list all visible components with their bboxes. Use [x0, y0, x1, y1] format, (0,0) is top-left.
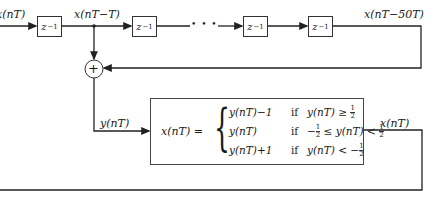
delay-exp: −1: [253, 23, 263, 31]
adder-plus-icon: +: [88, 62, 99, 75]
case-row-3: y(nT)+1ify(nT) < −12: [229, 143, 364, 158]
quantizer-block: x(nT) = { y(nT)−1ify(nT) ≥ 12 y(nT)if−12…: [150, 98, 364, 165]
ellipsis: • • •: [191, 20, 218, 29]
case-value: y(nT)+1: [229, 144, 291, 156]
frac-den: 2: [350, 113, 354, 120]
delay-z: z: [41, 21, 46, 32]
quantizer-output-label: x(nT): [380, 118, 409, 129]
case-cond: y(nT) ≥: [307, 106, 350, 118]
delay-z: z: [247, 21, 252, 32]
delay-block-1: z−1: [37, 16, 62, 37]
fraction: 12: [350, 105, 354, 120]
delay-block-4: z−1: [308, 16, 333, 37]
case-row-1: y(nT)−1ify(nT) ≥ 12: [229, 105, 355, 120]
case-cond-mid: ≤ y(nT) <: [320, 125, 379, 137]
left-brace-icon: {: [214, 103, 230, 153]
delay-output-label: x(nT−50T): [364, 9, 424, 20]
fraction: 12: [379, 124, 383, 139]
frac-den: 2: [379, 132, 383, 139]
case-value: y(nT)−1: [229, 106, 291, 118]
case-if: if: [291, 125, 307, 137]
case-value: y(nT): [229, 125, 291, 137]
delay-exp: −1: [318, 23, 328, 31]
case-if: if: [291, 106, 307, 118]
frac-den: 2: [359, 151, 363, 158]
case-cond: −: [307, 125, 316, 137]
delay-z: z: [312, 21, 317, 32]
sum-output-label: y(nT): [100, 118, 129, 129]
delay-block-2: z−1: [132, 16, 157, 37]
delay-z: z: [136, 21, 141, 32]
delay-exp: −1: [47, 23, 57, 31]
quantizer-lhs: x(nT) =: [161, 125, 203, 138]
case-if: if: [291, 144, 307, 156]
delay-block-3: z−1: [243, 16, 268, 37]
input-label: x(nT): [0, 9, 25, 20]
case-cond: y(nT) < −: [307, 144, 359, 156]
case-row-2: y(nT)if−12 ≤ y(nT) < 12: [229, 124, 384, 139]
fraction: 12: [359, 143, 363, 158]
delay-exp: −1: [142, 23, 152, 31]
tap-label: x(nT−T): [74, 9, 120, 20]
